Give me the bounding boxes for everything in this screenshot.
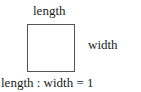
ratio-label: length : width = 1 bbox=[1, 76, 94, 90]
length-label: length bbox=[33, 4, 66, 18]
width-label: width bbox=[88, 38, 118, 52]
square-shape bbox=[27, 24, 75, 72]
